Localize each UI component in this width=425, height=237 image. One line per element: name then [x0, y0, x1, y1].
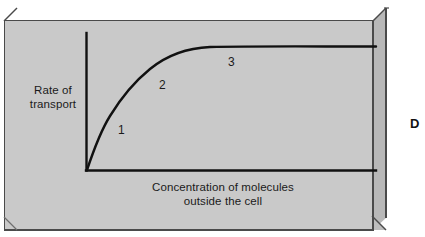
y-axis-label-line2: transport	[30, 98, 76, 110]
panel-corner-bevel-top-left	[3, 7, 21, 23]
y-axis-label: Rate oftransport	[24, 84, 82, 111]
curve-annotation-1: 1	[118, 124, 125, 136]
panel-right-inner-edge	[372, 20, 374, 230]
panel-corner-bevel-bottom-left	[3, 216, 23, 232]
panel-right-outer-edge	[385, 8, 387, 218]
y-axis-label-line1: Rate of	[34, 84, 72, 96]
x-axis-label-line1: Concentration of molecules	[152, 181, 294, 193]
curve-annotation-3: 3	[228, 56, 235, 68]
x-axis-label-line2: outside the cell	[184, 195, 262, 207]
panel-corner-bevel-top-right	[370, 7, 389, 23]
curve-annotation-2: 2	[159, 79, 166, 91]
panel-bottom-edge	[4, 229, 374, 231]
figure-root: Rate oftransport Concentration of molecu…	[0, 0, 425, 237]
panel-corner-bevel-bottom-right	[370, 214, 390, 232]
x-axis-label: Concentration of moleculesoutside the ce…	[131, 181, 315, 208]
answer-choice-letter: D	[410, 117, 419, 131]
